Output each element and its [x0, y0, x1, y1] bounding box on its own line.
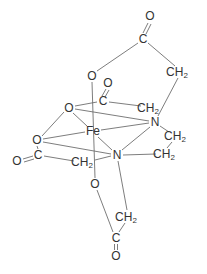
bond-c-mid-o-left-upper — [75, 102, 97, 106]
atom-ch2-bottom-label: CH — [115, 210, 132, 224]
atom-ch2-bottom: CH2 — [115, 210, 137, 225]
bond-n-lower-ch2-lower-right — [123, 154, 156, 155]
bond-ch2-lower-left-n-lower — [95, 156, 111, 160]
bond-o-left-upper-o-left — [42, 112, 64, 136]
atom-o-bottom-carbonyl: O — [111, 249, 120, 263]
atom-n-lower: N — [113, 148, 122, 162]
bonds — [23, 23, 178, 250]
atom-ch2-bottom-subscript: 2 — [132, 216, 137, 225]
atom-o-top-carbonyl: O — [145, 9, 154, 23]
bond-c-top-ch2 — [148, 43, 175, 66]
atom-ch2-top-right: CH2 — [166, 65, 188, 80]
atom-ch2-lower-left: CH2 — [71, 155, 93, 170]
atom-ch2-mid-label: CH — [137, 101, 154, 115]
atom-o-far-left-carbonyl: O — [12, 154, 21, 168]
bond-o-lower-c-bottom — [97, 190, 113, 232]
atom-ch2-lower-left-subscript: 2 — [88, 161, 93, 170]
atom-ch2-right: CH2 — [164, 129, 186, 144]
bond-fe-n-lower — [98, 137, 112, 150]
atom-ch2-right-label: CH — [164, 129, 181, 143]
atom-o-mid-carbonyl: O — [103, 76, 112, 90]
atom-ch2-top-right-label: CH — [166, 65, 183, 79]
atom-c-left: C — [34, 148, 43, 162]
fe-edta-structure-diagram: O C CH2 O O C CH2 O N Fe CH2 O CH2 C N O… — [0, 0, 207, 274]
atom-o-lower: O — [90, 177, 99, 191]
atom-o-left-upper: O — [64, 101, 73, 115]
bond-ch2-n-upper — [158, 78, 178, 116]
bond-o-left-fe — [43, 132, 85, 139]
bond-o-left-upper-fe — [73, 113, 87, 126]
atom-fe: Fe — [86, 124, 100, 138]
atom-c-bottom: C — [112, 231, 121, 245]
bond-c-left-o-double-b — [24, 159, 34, 162]
atom-o-upper: O — [87, 69, 96, 83]
atom-ch2-top-right-subscript: 2 — [183, 71, 188, 80]
atom-ch2-lower-right: CH2 — [153, 147, 175, 162]
atom-n-upper: N — [151, 115, 160, 129]
atom-c-top: C — [139, 32, 148, 46]
atom-ch2-lower-right-label: CH — [153, 147, 170, 161]
bond-c-left-ch2-lower-left — [44, 156, 74, 161]
bond-fe-n-upper — [101, 123, 149, 130]
atom-ch2-lower-right-subscript: 2 — [170, 153, 175, 162]
bond-c-top-o-upper — [97, 43, 138, 71]
bond-o-left-n-lower — [43, 142, 111, 154]
bond-c-left-o-double-a — [23, 156, 33, 159]
atom-ch2-lower-left-label: CH — [71, 155, 88, 169]
atom-c-mid: C — [99, 94, 108, 108]
atoms: O C CH2 O O C CH2 O N Fe CH2 O CH2 C N O… — [12, 9, 188, 263]
bond-n-upper-n-lower — [122, 127, 150, 150]
atom-ch2-right-subscript: 2 — [181, 135, 186, 144]
atom-ch2-mid: CH2 — [137, 101, 159, 116]
atom-o-left: O — [32, 133, 41, 147]
structure-svg: O C CH2 O O C CH2 O N Fe CH2 O CH2 C N O… — [0, 0, 207, 274]
bond-n-lower-ch2-bottom — [118, 161, 127, 210]
